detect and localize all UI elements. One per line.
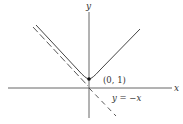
y-axis-label: y (85, 1, 92, 11)
hyperbola-diagram: y x (0, 1) y = −x (0, 0, 183, 124)
x-axis-label: x (174, 83, 179, 93)
asymptote-upper-left (33, 27, 88, 86)
vertex-point (87, 77, 91, 81)
vertex-label: (0, 1) (103, 75, 126, 85)
asymptote-label: y = −x (111, 93, 141, 103)
hyperbola-curve (36, 25, 140, 79)
